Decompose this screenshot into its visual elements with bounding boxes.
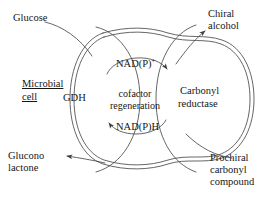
label-nadp-reduced: NAD(P)H — [116, 121, 159, 133]
pathway-figure: Glucose Glucono lactone Chiral alcohol P… — [0, 0, 277, 197]
label-microbial-cell-line1: Microbial — [22, 78, 63, 90]
glucono-lactone-outflow-arrow — [67, 156, 105, 163]
label-nadp-oxidized-charge: + — [152, 57, 156, 64]
label-prochiral-carbonyl-compound: Prochiral carbonyl compound — [210, 152, 254, 187]
label-nadp-oxidized-text: NAD(P) — [116, 58, 152, 69]
glucose-inflow-line — [45, 22, 92, 56]
label-glucose: Glucose — [13, 12, 47, 24]
label-microbial-cell-line2: cell — [22, 91, 37, 103]
label-cofactor-line2: regeneration — [98, 100, 172, 111]
label-cofactor-line1: cofactor — [104, 88, 166, 99]
label-chiral-alcohol: Chiral alcohol — [208, 8, 239, 32]
label-gdh-enzyme: GDH — [63, 92, 86, 104]
label-glucono-lactone: Glucono lactone — [8, 150, 44, 174]
label-carbonyl-reductase-line1: Carbonyl — [180, 85, 219, 97]
label-nadp-oxidized: NAD(P)+ — [116, 58, 155, 70]
label-carbonyl-reductase-line2: reductase — [178, 98, 218, 110]
